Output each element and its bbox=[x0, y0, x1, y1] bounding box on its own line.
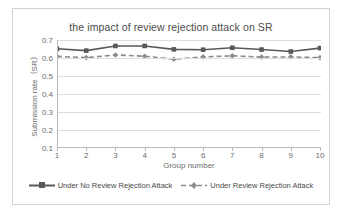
x-axis-tick-label: 4 bbox=[142, 151, 146, 160]
legend-label-attack: Under Review Rejection Attack bbox=[210, 181, 313, 190]
x-axis-tick-mark bbox=[232, 148, 233, 151]
x-axis-title: Group number bbox=[57, 161, 321, 170]
legend-label-no-attack: Under No Review Rejection Attack bbox=[58, 181, 173, 190]
gridline bbox=[57, 58, 321, 59]
legend-swatch-solid-square-icon bbox=[29, 181, 55, 190]
gridline bbox=[57, 94, 321, 95]
data-point-marker bbox=[113, 44, 118, 49]
data-point-marker bbox=[172, 47, 177, 52]
y-axis-title: Submission rate（SR） bbox=[27, 40, 39, 148]
x-axis-tick-mark bbox=[115, 148, 116, 151]
y-axis-title-label: Submission rate（SR） bbox=[28, 52, 39, 136]
x-axis-tick-mark bbox=[262, 148, 263, 151]
x-axis-tick-mark bbox=[320, 148, 321, 151]
data-point-marker bbox=[201, 47, 206, 52]
gridline bbox=[57, 76, 321, 77]
x-axis-tick-label: 7 bbox=[230, 151, 234, 160]
x-axis-tick-label: 6 bbox=[201, 151, 205, 160]
data-point-marker bbox=[318, 46, 321, 51]
gridline bbox=[57, 40, 321, 41]
legend-item-attack[interactable]: Under Review Rejection Attack bbox=[181, 181, 313, 190]
x-axis-tick-mark bbox=[86, 148, 87, 151]
x-axis-tick-mark bbox=[57, 148, 58, 151]
data-point-marker bbox=[230, 45, 235, 50]
x-axis-line bbox=[57, 147, 321, 148]
y-axis-tick-label: 0.3 bbox=[42, 108, 53, 117]
data-point-marker bbox=[259, 47, 264, 52]
x-axis-tick-mark bbox=[145, 148, 146, 151]
chart-title: the impact of review rejection attack on… bbox=[13, 21, 329, 33]
gridline bbox=[57, 112, 321, 113]
data-point-marker bbox=[142, 44, 147, 49]
chart-container: the impact of review rejection attack on… bbox=[12, 8, 330, 205]
y-axis-tick-label: 0.4 bbox=[42, 90, 53, 99]
legend-item-no-attack[interactable]: Under No Review Rejection Attack bbox=[29, 181, 173, 190]
series-line bbox=[57, 46, 320, 52]
series-1 bbox=[57, 44, 321, 54]
x-axis-tick-mark bbox=[291, 148, 292, 151]
y-axis-tick-label: 0.2 bbox=[42, 126, 53, 135]
data-point-marker bbox=[288, 49, 293, 54]
x-axis-tick-label: 2 bbox=[84, 151, 88, 160]
x-axis-tick-label: 3 bbox=[113, 151, 117, 160]
x-axis-tick-label: 10 bbox=[316, 151, 325, 160]
y-axis-line bbox=[57, 40, 58, 148]
x-axis-tick-mark bbox=[174, 148, 175, 151]
x-axis-tick-label: 5 bbox=[172, 151, 176, 160]
data-point-marker bbox=[113, 52, 119, 58]
x-axis-tick-label: 1 bbox=[55, 151, 59, 160]
y-axis-tick-label: 0.6 bbox=[42, 54, 53, 63]
chart-legend: Under No Review Rejection Attack Under R… bbox=[13, 181, 329, 190]
y-axis-tick-label: 0.5 bbox=[42, 72, 53, 81]
x-axis-tick-mark bbox=[203, 148, 204, 151]
x-axis-tick-label: 9 bbox=[289, 151, 293, 160]
y-axis-tick-label: 0.7 bbox=[42, 36, 53, 45]
plot-area: 0.10.20.30.40.50.60.7 12345678910 bbox=[57, 40, 321, 148]
data-point-marker bbox=[84, 48, 89, 53]
y-axis-tick-label: 0.1 bbox=[42, 144, 53, 153]
x-axis-tick-label: 8 bbox=[259, 151, 263, 160]
gridline bbox=[57, 130, 321, 131]
legend-swatch-dashed-diamond-icon bbox=[181, 181, 207, 190]
